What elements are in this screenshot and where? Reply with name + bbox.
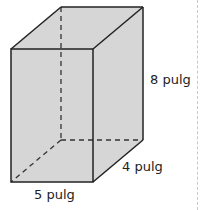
rectangular-prism-diagram [0, 0, 201, 210]
height-label: 8 pulg [150, 73, 191, 86]
width-label: 5 pulg [34, 188, 75, 201]
depth-label: 4 pulg [122, 160, 163, 173]
page-margin-divider [197, 0, 198, 210]
prism-front-face [11, 49, 93, 182]
